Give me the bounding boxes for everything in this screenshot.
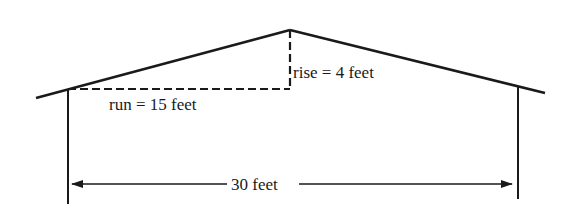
roof-right-slope xyxy=(290,30,545,93)
span-label: 30 feet xyxy=(231,175,278,194)
run-label: run = 15 feet xyxy=(109,95,197,114)
rise-label: rise = 4 feet xyxy=(293,63,374,82)
roof-left-slope xyxy=(36,30,290,98)
roof-diagram: run = 15 feet rise = 4 feet 30 feet xyxy=(0,0,576,214)
